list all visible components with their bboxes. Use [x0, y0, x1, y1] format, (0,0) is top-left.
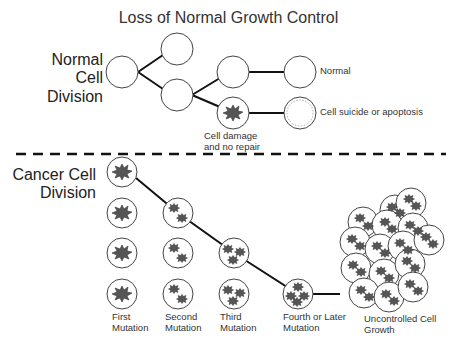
normal-outcome-cell	[284, 56, 316, 88]
cell-damage-label: Cell damage and no repair	[204, 131, 260, 153]
apoptosis-cell	[284, 97, 316, 129]
outcome-normal-label: Normal	[320, 66, 351, 77]
normal-connectors	[138, 55, 284, 113]
stage-third-label: Third Mutation	[220, 312, 256, 334]
granddaughter-cell-normal	[217, 56, 249, 88]
label-line: Normal	[47, 51, 103, 69]
label-line: Division	[12, 184, 96, 202]
cancer-connectors	[136, 178, 340, 294]
uncontrolled-growth-cluster	[340, 188, 444, 312]
parent-cell	[106, 56, 138, 88]
daughter-cell-bottom	[161, 79, 193, 111]
label-line: Mutation	[283, 323, 346, 334]
cancer-division-label: Cancer Cell Division	[12, 166, 96, 203]
label-line: and no repair	[204, 142, 260, 153]
stage-first-label: First Mutation	[112, 312, 148, 334]
label-line: Growth	[364, 325, 436, 336]
stage-fourth-label: Fourth or Later Mutation	[283, 312, 346, 334]
stage-second-label: Second Mutation	[165, 312, 201, 334]
label-line: Mutation	[220, 323, 256, 334]
normal-cells	[106, 33, 316, 129]
label-line: Division	[47, 88, 103, 106]
normal-division-label: Normal Cell Division	[47, 51, 103, 106]
label-line: Mutation	[165, 323, 201, 334]
label-line: Mutation	[112, 323, 148, 334]
outcome-apoptosis-label: Cell suicide or apoptosis	[320, 107, 423, 118]
uncontrolled-growth-label: Uncontrolled Cell Growth	[364, 314, 436, 336]
label-line: Cell	[47, 69, 103, 87]
daughter-cell-top	[161, 33, 193, 65]
diagram-title: Loss of Normal Growth Control	[0, 9, 457, 27]
label-line: Cancer Cell	[12, 166, 96, 184]
